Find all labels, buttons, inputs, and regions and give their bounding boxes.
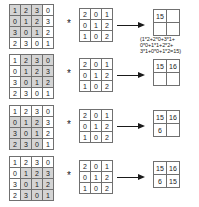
matrix-cell: 2 (10, 190, 21, 201)
matrix-cell: 0 (91, 110, 102, 121)
matrix-cell: 0 (43, 106, 54, 117)
matrix-cell: 2 (32, 168, 43, 179)
arrow-line (117, 126, 139, 127)
matrix-cell: 3 (10, 128, 21, 139)
matrix-cell: 2 (21, 157, 32, 168)
matrix-cell: 1 (43, 38, 54, 49)
matrix-cell: 1 (10, 157, 21, 168)
matrix-cell: 6 (154, 175, 167, 188)
matrix-cell: 1 (80, 183, 91, 194)
input-matrix: 1230012330122301 (9, 105, 54, 150)
matrix-cell: 2 (102, 183, 113, 194)
matrix-cell (167, 10, 180, 23)
matrix-cell: 0 (21, 179, 32, 190)
matrix-cell: 1 (91, 70, 102, 81)
matrix-cell: 3 (43, 16, 54, 27)
matrix-cell: 0 (10, 66, 21, 77)
matrix-cell: 3 (21, 38, 32, 49)
matrix-cell: 0 (21, 27, 32, 38)
matrix-cell: 3 (21, 139, 32, 150)
matrix-cell (154, 73, 167, 86)
convolution-step-row: 1230012330122301*20101210215(1*2+2*0+3*1… (0, 0, 199, 52)
matrix-cell: 0 (91, 161, 102, 172)
matrix-cell: 2 (80, 9, 91, 20)
matrix-cell: 3 (10, 77, 21, 88)
matrix-cell: 0 (80, 20, 91, 31)
matrix-cell: 0 (80, 121, 91, 132)
matrix-cell: 3 (32, 55, 43, 66)
matrix-cell: 0 (21, 128, 32, 139)
matrix-cell: 2 (102, 31, 113, 42)
matrix-cell: 15 (167, 175, 180, 188)
matrix-cell: 2 (21, 106, 32, 117)
matrix-cell: 1 (43, 88, 54, 99)
matrix-cell: 0 (91, 9, 102, 20)
arrow-right-icon (117, 173, 147, 182)
matrix-cell: 0 (10, 117, 21, 128)
matrix-cell: 1 (80, 132, 91, 143)
matrix-cell: 2 (10, 88, 21, 99)
arrow-line (117, 25, 139, 26)
matrix-cell (167, 73, 180, 86)
matrix-cell: 3 (43, 117, 54, 128)
matrix-cell: 1 (80, 31, 91, 42)
matrix-cell: 15 (154, 162, 167, 175)
convolution-diagram: 1230012330122301*20101210215(1*2+2*0+3*1… (0, 0, 199, 207)
matrix-cell: 0 (91, 183, 102, 194)
matrix-cell: 1 (102, 9, 113, 20)
matrix-cell: 3 (21, 88, 32, 99)
matrix-cell: 3 (10, 27, 21, 38)
matrix-cell: 0 (43, 157, 54, 168)
matrix-cell: 1 (10, 5, 21, 16)
matrix-cell: 0 (32, 190, 43, 201)
convolution-operator-symbol: * (64, 170, 74, 182)
matrix-cell: 1 (10, 55, 21, 66)
matrix-cell: 2 (32, 117, 43, 128)
output-matrix: 1516615 (153, 161, 180, 188)
matrix-cell: 1 (43, 190, 54, 201)
arrow-line (117, 75, 139, 76)
matrix-cell: 16 (167, 60, 180, 73)
matrix-cell: 2 (80, 110, 91, 121)
matrix-cell: 2 (102, 172, 113, 183)
convolution-operator-symbol: * (64, 119, 74, 131)
kernel-matrix: 201012102 (79, 160, 113, 194)
matrix-cell: 0 (43, 5, 54, 16)
matrix-cell: 2 (43, 128, 54, 139)
matrix-cell: 1 (21, 66, 32, 77)
matrix-cell: 3 (21, 190, 32, 201)
matrix-cell: 2 (102, 132, 113, 143)
matrix-cell: 3 (32, 106, 43, 117)
output-matrix: 15166 (153, 110, 180, 137)
matrix-cell (154, 23, 167, 36)
arrow-right-icon (117, 122, 147, 131)
input-matrix: 1230012330122301 (9, 54, 54, 99)
matrix-cell: 1 (91, 121, 102, 132)
matrix-cell: 2 (80, 59, 91, 70)
matrix-cell: 0 (80, 172, 91, 183)
convolution-step-row: 1230012330122301*2010121021516 (0, 50, 199, 102)
matrix-cell: 0 (91, 31, 102, 42)
arrow-right-icon (117, 71, 147, 80)
convolution-operator-symbol: * (64, 18, 74, 30)
input-matrix: 1230012330122301 (9, 4, 54, 49)
matrix-cell: 2 (43, 27, 54, 38)
matrix-cell: 0 (21, 77, 32, 88)
matrix-cell: 1 (10, 106, 21, 117)
matrix-cell: 1 (91, 20, 102, 31)
matrix-cell: 0 (80, 70, 91, 81)
matrix-cell: 1 (80, 81, 91, 92)
matrix-cell: 2 (80, 161, 91, 172)
matrix-cell: 2 (21, 5, 32, 16)
matrix-cell: 2 (102, 20, 113, 31)
matrix-cell: 2 (10, 38, 21, 49)
arrow-head (138, 22, 145, 28)
matrix-cell: 3 (43, 168, 54, 179)
matrix-cell: 0 (91, 132, 102, 143)
kernel-matrix: 201012102 (79, 58, 113, 92)
matrix-cell: 3 (43, 66, 54, 77)
matrix-cell: 2 (10, 139, 21, 150)
input-matrix: 1230012330122301 (9, 156, 54, 201)
convolution-operator-symbol: * (64, 68, 74, 80)
matrix-cell: 16 (167, 162, 180, 175)
